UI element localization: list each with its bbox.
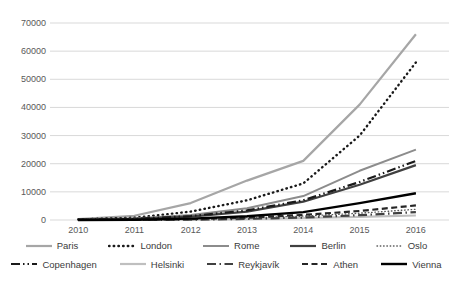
- legend-row-2: CopenhagenHelsinkiReykjavíkAthenVienna: [10, 260, 441, 270]
- legend-label-copenhagen: Copenhagen: [42, 260, 96, 270]
- x-axis-tick-label: 2016: [406, 225, 426, 235]
- y-axis-tick-label: 0: [41, 215, 46, 225]
- x-axis-tick-label: 2015: [350, 225, 370, 235]
- chart-svg: 0100002000030000400005000060000700002010…: [0, 0, 452, 238]
- x-axis-tick-label: 2013: [237, 225, 257, 235]
- legend-label-helsinki: Helsinki: [151, 260, 184, 270]
- legend-swatch-oslo: [376, 243, 404, 249]
- legend-item-helsinki: Helsinki: [119, 260, 184, 270]
- legend-item-london: London: [108, 241, 172, 251]
- chart-legend: ParisLondonRomeBerlinOslo CopenhagenHels…: [0, 238, 452, 269]
- y-axis-tick-label: 60000: [21, 46, 46, 56]
- legend-item-paris: Paris: [25, 241, 79, 251]
- y-axis-tick-label: 30000: [21, 131, 46, 141]
- legend-item-copenhagen: Copenhagen: [10, 260, 96, 270]
- y-axis-tick-label: 20000: [21, 159, 46, 169]
- legend-swatch-london: [108, 243, 136, 249]
- chart-plot-area: 0100002000030000400005000060000700002010…: [0, 0, 452, 238]
- legend-label-london: London: [140, 241, 172, 251]
- legend-swatch-helsinki: [119, 261, 147, 267]
- y-axis-tick-label: 50000: [21, 74, 46, 84]
- legend-label-rome: Rome: [234, 241, 259, 251]
- legend-label-athen: Athen: [333, 260, 358, 270]
- legend-swatch-reykjavik: [206, 261, 234, 267]
- legend-label-reykjavik: Reykjavík: [238, 260, 279, 270]
- x-axis-tick-label: 2014: [293, 225, 313, 235]
- legend-item-athen: Athen: [301, 260, 358, 270]
- x-axis-tick-label: 2011: [125, 225, 144, 235]
- x-axis-tick-label: 2010: [68, 225, 88, 235]
- legend-swatch-berlin: [289, 243, 317, 249]
- legend-item-berlin: Berlin: [289, 241, 345, 251]
- line-chart-screenshot: 0100002000030000400005000060000700002010…: [0, 0, 452, 290]
- y-axis-tick-label: 10000: [21, 187, 46, 197]
- legend-item-rome: Rome: [202, 241, 259, 251]
- legend-swatch-copenhagen: [10, 261, 38, 267]
- y-axis-tick-label: 70000: [21, 18, 46, 28]
- legend-label-berlin: Berlin: [321, 241, 345, 251]
- legend-label-paris: Paris: [57, 241, 79, 251]
- legend-swatch-athen: [301, 261, 329, 267]
- legend-swatch-paris: [25, 243, 53, 249]
- legend-row-1: ParisLondonRomeBerlinOslo: [25, 241, 428, 251]
- series-line-london: [78, 62, 416, 219]
- series-line-rome: [78, 150, 416, 220]
- x-axis-tick-label: 2012: [181, 225, 201, 235]
- y-axis-tick-label: 40000: [21, 102, 46, 112]
- legend-label-vienna: Vienna: [412, 260, 441, 270]
- legend-item-reykjavik: Reykjavík: [206, 260, 279, 270]
- legend-swatch-vienna: [380, 261, 408, 267]
- legend-item-vienna: Vienna: [380, 260, 441, 270]
- legend-swatch-rome: [202, 243, 230, 249]
- legend-label-oslo: Oslo: [408, 241, 428, 251]
- legend-item-oslo: Oslo: [376, 241, 428, 251]
